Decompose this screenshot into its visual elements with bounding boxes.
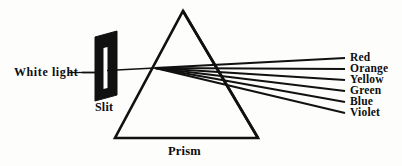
slit-aperture xyxy=(104,47,108,89)
spectrum-label-violet: Violet xyxy=(350,107,380,119)
diagram-canvas xyxy=(0,0,402,166)
ray-red xyxy=(155,58,345,68)
slit-label: Slit xyxy=(95,101,113,113)
prism-label: Prism xyxy=(168,145,201,158)
dispersed-ray-group xyxy=(155,58,345,113)
ray-green xyxy=(155,68,345,91)
white-light-label: White light xyxy=(14,66,78,78)
prism-dispersion-diagram: White light Slit Prism Red Orange Yellow… xyxy=(0,0,402,166)
slit-plate xyxy=(95,31,117,101)
